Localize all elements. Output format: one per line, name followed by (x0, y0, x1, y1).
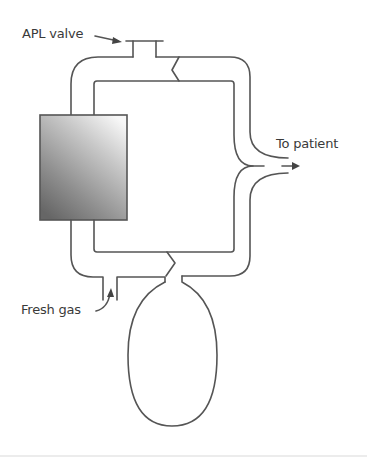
fresh-gas-label: Fresh gas (21, 302, 81, 317)
co2-absorber-canister (40, 115, 127, 220)
fresh-gas-inlet (117, 277, 165, 300)
bottom-divider (0, 455, 367, 457)
outer-pipe-top-left (71, 57, 133, 115)
inspiratory-valve-icon (172, 57, 179, 81)
to-patient-label: To patient (276, 136, 338, 151)
expiratory-valve-icon (166, 252, 175, 276)
apl-valve (126, 41, 163, 57)
apl-valve-label: APL valve (22, 26, 83, 41)
circuit-diagram (0, 0, 367, 461)
outer-pipe-bottom-left (71, 220, 103, 300)
reservoir-bag (128, 276, 217, 426)
outer-pipe-top-right (156, 57, 288, 158)
